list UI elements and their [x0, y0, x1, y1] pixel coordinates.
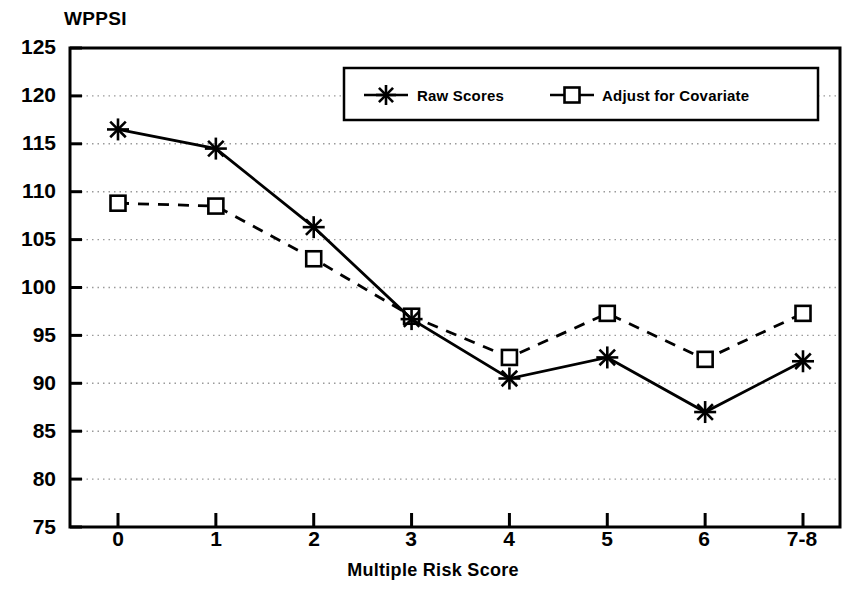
series-adjust-for-covariate — [111, 196, 811, 367]
series-raw-scores — [107, 118, 814, 423]
gridlines — [70, 96, 840, 479]
legend-label-raw-scores: Raw Scores — [417, 87, 504, 104]
legend-label-adjust-for-covariate: Adjust for Covariate — [602, 87, 749, 104]
chart-container: WPPSI Multiple Risk Score 125 120 115 11… — [0, 0, 866, 602]
plot-area: Raw Scores Adjust for Covariate — [0, 0, 866, 602]
x-axis-ticks — [118, 513, 803, 527]
y-axis-ticks — [70, 48, 82, 527]
